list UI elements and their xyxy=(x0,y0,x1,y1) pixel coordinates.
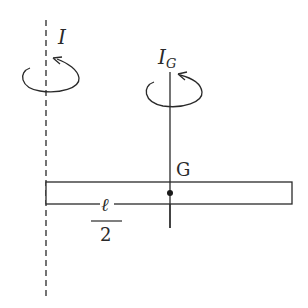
end-axis-label: I xyxy=(57,25,67,49)
end-axis-rotation-arrow-icon xyxy=(23,57,79,92)
center-axis-label: IG xyxy=(157,45,176,71)
rotation-diagram: I IG G ℓ 2 xyxy=(0,0,308,308)
half-length-numerator: ℓ xyxy=(101,194,109,215)
center-axis-rotation-arrow-icon xyxy=(146,72,202,107)
half-length-denominator: 2 xyxy=(100,224,111,245)
center-of-mass-dot xyxy=(167,190,173,196)
center-of-mass-label: G xyxy=(176,159,190,180)
